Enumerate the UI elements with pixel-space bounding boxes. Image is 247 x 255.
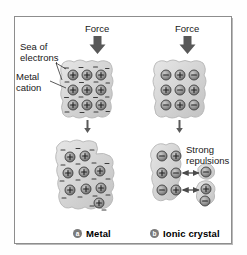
caption-marker-b: b — [150, 229, 159, 238]
strong-repulsions-label: Strong repulsions — [186, 145, 229, 166]
metal-lattice-after — [56, 140, 114, 210]
sea-of-electrons-label: Sea of electrons — [20, 42, 59, 63]
caption-label-metal: Metal — [86, 228, 111, 239]
chemistry-figure: Force Force Sea of electrons Metal catio… — [0, 0, 247, 255]
caption-label-ionic-crystal: Ionic crystal — [163, 228, 220, 239]
metal-lattice-before — [60, 60, 113, 118]
transition-arrow-metal — [84, 120, 91, 133]
metal-cation-label: Metal cation — [16, 72, 41, 93]
ionic-fragments — [196, 164, 215, 206]
force-label-ionic: Force — [175, 24, 199, 35]
metal-cations-before — [68, 70, 106, 110]
figure-graphics — [0, 0, 247, 255]
force-label-metal: Force — [85, 24, 109, 35]
force-arrow-metal — [90, 36, 106, 54]
caption-marker-a: a — [73, 229, 82, 238]
transition-arrow-ionic — [176, 120, 183, 133]
ionic-ions-before — [161, 70, 199, 110]
force-arrow-ionic — [180, 36, 196, 54]
caption-metal: a Metal — [73, 228, 111, 239]
ionic-lattice-before — [153, 60, 206, 118]
caption-ionic-crystal: b Ionic crystal — [150, 228, 220, 239]
